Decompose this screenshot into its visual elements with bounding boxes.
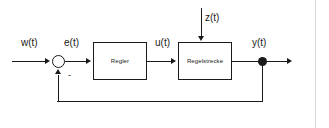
- arrowhead-error-signal: [86, 58, 91, 64]
- line-disturbance-input: [201, 8, 202, 37]
- arrowhead-disturbance-input: [198, 36, 204, 41]
- line-feedback-horizontal: [57, 101, 262, 102]
- line-error-signal: [65, 61, 87, 62]
- block-controller-label: Regler: [111, 58, 129, 65]
- line-feedback-vertical-right: [262, 61, 263, 102]
- summing-junction-negative-sign: -: [68, 71, 71, 80]
- signal-label-e: e(t): [64, 37, 79, 48]
- block-plant[interactable]: Regelstrecke: [178, 42, 232, 80]
- signal-label-u: u(t): [155, 37, 170, 48]
- line-control-signal: [147, 61, 172, 62]
- signal-label-w: w(t): [21, 37, 38, 48]
- line-feedback-vertical-left: [58, 75, 59, 102]
- arrowhead-feedback-input: [55, 69, 61, 74]
- summing-junction: [52, 55, 65, 68]
- line-output-signal: [266, 61, 288, 62]
- block-controller[interactable]: Regler: [93, 42, 147, 80]
- arrowhead-reference-input: [45, 58, 50, 64]
- signal-label-y: y(t): [252, 37, 266, 48]
- signal-label-z: z(t): [205, 12, 219, 23]
- figure-border-right: [315, 0, 316, 128]
- arrowhead-output-signal: [287, 58, 292, 64]
- block-plant-label: Regelstrecke: [187, 58, 223, 65]
- line-reference-input: [12, 61, 46, 62]
- arrowhead-control-signal: [171, 58, 176, 64]
- block-diagram-canvas: w(t) e(t) u(t) z(t) y(t) - Regler Regels…: [0, 0, 329, 128]
